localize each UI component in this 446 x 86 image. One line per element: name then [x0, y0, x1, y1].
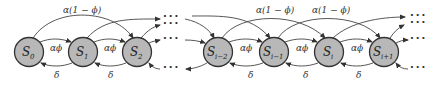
- back-edge-s2-s1: [95, 63, 126, 66]
- ellipsis-mid: ···: [163, 33, 180, 44]
- node-si-1: S i−1: [260, 38, 289, 67]
- node-s1: S 1: [69, 38, 98, 67]
- markov-chain-diagram: ··· ··· ··· ··· ··· ··· ··· ··· α(1 − ϕ)…: [0, 0, 446, 86]
- skip-edge-s0-s2: [33, 15, 133, 38]
- label-back-0: δ: [54, 70, 59, 80]
- fwd-edge-s0-s1: [40, 39, 71, 42]
- node-si: S i: [315, 38, 344, 67]
- label-back-3: δ: [303, 70, 308, 80]
- node-si-2-label: S: [207, 45, 215, 59]
- ellipsis-right-top-2: ···: [410, 17, 427, 28]
- node-si-2-sub: i−2: [215, 53, 228, 61]
- back-edge-si-si1: [286, 63, 318, 66]
- label-back-4: δ: [356, 70, 361, 80]
- skip-edge-s1-dots: [87, 19, 160, 38]
- label-fwd-4: αϕ: [351, 43, 363, 53]
- back-edge-dots-s2: [149, 63, 160, 69]
- fwd-edge-si-si+1: [340, 39, 372, 42]
- skip-edge-s2-dots: [141, 25, 160, 38]
- node-si-2: S i−2: [204, 38, 233, 67]
- label-skip-2: α(1 − ϕ): [312, 5, 351, 15]
- ellipsis-top-2: ···: [163, 18, 180, 29]
- node-si-sub: i: [331, 53, 333, 61]
- fwd-edge-s1-s2: [94, 39, 125, 42]
- node-s2-sub: 2: [137, 53, 143, 61]
- skip-edge-dots-si2: [185, 19, 214, 38]
- ellipsis-right-mid: ···: [410, 33, 427, 44]
- label-back-2: δ: [248, 70, 253, 80]
- node-si+1-label: S: [373, 45, 381, 59]
- label-fwd-0: αϕ: [50, 43, 62, 53]
- fwd-edge-dots-si2: [185, 40, 205, 43]
- ellipsis-right-bottom: ···: [410, 62, 427, 73]
- fwd-edge-s2-dots: [149, 40, 160, 43]
- node-s2: S 2: [123, 38, 152, 67]
- back-edge-si1-si2: [230, 63, 263, 66]
- skip-edge-si2-si: [222, 19, 325, 39]
- label-fwd-3: αϕ: [296, 43, 308, 53]
- node-s1-label: S: [76, 45, 84, 59]
- node-si+1-sub: i+1: [381, 53, 394, 61]
- back-edge-si+1-si: [341, 63, 373, 66]
- node-s0-sub: 0: [30, 53, 35, 61]
- label-back-1: δ: [108, 70, 113, 80]
- node-si-1-sub: i−1: [271, 53, 284, 61]
- back-edge-si2-dots: [186, 63, 207, 69]
- back-edge-dots-si+1: [396, 63, 408, 69]
- skip-edge-si+1-dots: [390, 25, 404, 38]
- ellipsis-bottom: ···: [163, 62, 180, 73]
- fwd-edge-si+1-dots: [396, 40, 408, 43]
- node-s0-label: S: [22, 45, 30, 59]
- node-si+1: S i+1: [370, 38, 399, 67]
- node-s1-sub: 1: [84, 53, 88, 61]
- node-si-1-label: S: [263, 45, 271, 59]
- fwd-edge-si2-si1: [229, 39, 262, 42]
- node-si-label: S: [323, 45, 331, 59]
- label-fwd-1: αϕ: [104, 43, 116, 53]
- label-skip-0: α(1 − ϕ): [63, 5, 102, 15]
- node-s2-label: S: [130, 45, 138, 59]
- label-fwd-2: αϕ: [240, 43, 252, 53]
- back-edge-s1-s0: [41, 63, 72, 66]
- fwd-edge-si1-si: [285, 39, 317, 42]
- node-s0: S 0: [15, 38, 44, 67]
- label-skip-1: α(1 − ϕ): [256, 5, 295, 15]
